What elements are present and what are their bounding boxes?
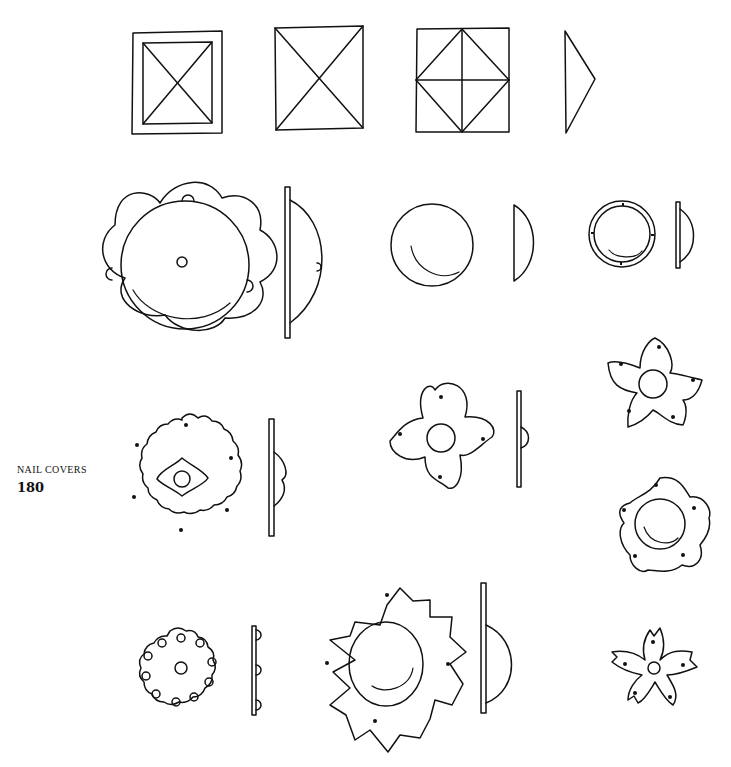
ringed-dome xyxy=(589,201,655,267)
wavy-five-petal-dome xyxy=(620,478,710,572)
square-framed-pyramid xyxy=(132,31,222,134)
pyramid-profile xyxy=(565,31,595,133)
four-petal-cover xyxy=(390,383,494,488)
square-diamond-faceted xyxy=(416,28,509,132)
sunflower-dome-profile xyxy=(481,583,512,713)
dotted-rosette-profile xyxy=(252,626,261,715)
square-pyramid xyxy=(275,26,363,130)
scalloped-rosette xyxy=(132,414,242,532)
plain-dome xyxy=(391,204,473,286)
illustration-plate xyxy=(0,0,731,767)
five-petal-cover xyxy=(608,338,702,427)
scalloped-rosette-profile xyxy=(269,419,286,536)
lobed-domed-cover-profile xyxy=(285,187,322,338)
ringed-dome-profile xyxy=(676,202,694,268)
plain-dome-profile xyxy=(514,205,534,281)
four-petal-cover-profile xyxy=(517,391,529,487)
sunflower-dome xyxy=(325,588,466,752)
lobed-domed-cover xyxy=(103,182,277,330)
cherry-blossom xyxy=(612,628,697,705)
dotted-rosette xyxy=(140,628,216,706)
